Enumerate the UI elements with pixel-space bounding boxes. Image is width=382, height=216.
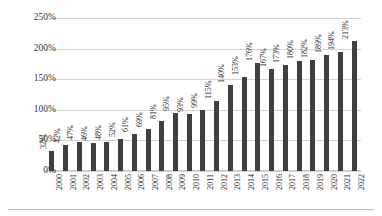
bar[interactable] xyxy=(269,69,274,171)
bar-slot: 213% xyxy=(347,18,361,171)
bar[interactable] xyxy=(104,142,109,171)
bar-value-label: 182% xyxy=(301,39,309,58)
bar-value-label: 32% xyxy=(40,135,48,150)
bar-value-label: 47% xyxy=(67,126,75,141)
bar[interactable] xyxy=(159,121,164,171)
bar[interactable] xyxy=(173,113,178,171)
x-tick-slot: 2015 xyxy=(251,173,265,213)
bar[interactable] xyxy=(338,52,343,171)
bar-value-label: 81% xyxy=(150,105,158,120)
bar[interactable] xyxy=(132,134,137,171)
x-tick-slot: 2019 xyxy=(306,173,320,213)
bar-chart: 0%50%100%150%200%250% 32%42%47%46%48%52%… xyxy=(0,0,382,216)
bar[interactable] xyxy=(63,145,68,171)
document-separator xyxy=(8,209,374,210)
bar[interactable] xyxy=(91,143,96,171)
bar-value-label: 93% xyxy=(177,97,185,112)
bar-value-label: 115% xyxy=(205,80,213,98)
x-tick-slot: 2004 xyxy=(100,173,114,213)
bar[interactable] xyxy=(214,101,219,171)
x-tick-slot: 2010 xyxy=(182,173,196,213)
x-tick-slot: 2005 xyxy=(114,173,128,213)
bar-slot: 167% xyxy=(265,18,279,171)
x-tick-slot: 2001 xyxy=(59,173,73,213)
bar-value-label: 52% xyxy=(109,123,117,138)
bar[interactable] xyxy=(200,110,205,171)
bar[interactable] xyxy=(297,61,302,171)
x-tick-slot: 2009 xyxy=(169,173,183,213)
bar-value-label: 213% xyxy=(342,20,350,39)
bar[interactable] xyxy=(352,41,357,171)
bar-value-label: 61% xyxy=(122,117,130,132)
bar-series: 32%42%47%46%48%52%61%69%81%95%93%99%115%… xyxy=(45,18,361,171)
x-tick-slot: 2000 xyxy=(45,173,59,213)
gridline xyxy=(45,171,361,172)
bar[interactable] xyxy=(228,85,233,171)
bar[interactable] xyxy=(242,77,247,171)
bar-value-label: 140% xyxy=(218,65,226,84)
bar-slot: 46% xyxy=(86,18,100,171)
x-tick-slot: 2013 xyxy=(224,173,238,213)
x-tick-slot: 2022 xyxy=(347,173,361,213)
bar-slot: 153% xyxy=(237,18,251,171)
bar[interactable] xyxy=(77,142,82,171)
x-tick-slot: 2012 xyxy=(210,173,224,213)
bar-slot: 194% xyxy=(333,18,347,171)
bar-slot: 140% xyxy=(224,18,238,171)
bar-slot: 48% xyxy=(100,18,114,171)
x-tick-slot: 2008 xyxy=(155,173,169,213)
bar-value-label: 176% xyxy=(246,43,254,62)
bar-slot: 52% xyxy=(114,18,128,171)
bar-value-label: 180% xyxy=(287,40,295,59)
bar-value-label: 153% xyxy=(232,57,240,76)
x-tick-slot: 2002 xyxy=(72,173,86,213)
bar-slot: 81% xyxy=(155,18,169,171)
x-tick-slot: 2017 xyxy=(278,173,292,213)
x-tick-slot: 2014 xyxy=(237,173,251,213)
x-tick-slot: 2018 xyxy=(292,173,306,213)
x-tick-slot: 2003 xyxy=(86,173,100,213)
bar-slot: 42% xyxy=(59,18,73,171)
bar[interactable] xyxy=(255,63,260,171)
bar-value-label: 95% xyxy=(163,96,171,111)
x-axis: 2000200120022003200420052006200720082009… xyxy=(45,173,361,213)
bar[interactable] xyxy=(49,151,54,171)
bar-slot: 61% xyxy=(127,18,141,171)
bar-value-label: 42% xyxy=(54,129,62,144)
bar-value-label: 173% xyxy=(273,44,281,63)
x-tick-slot: 2021 xyxy=(333,173,347,213)
bar-value-label: 189% xyxy=(315,35,323,54)
bar-value-label: 194% xyxy=(328,32,336,51)
bar-value-label: 48% xyxy=(95,125,103,140)
bar-value-label: 167% xyxy=(260,48,268,67)
x-axis-tick-label: 2022 xyxy=(358,174,366,190)
bar[interactable] xyxy=(310,60,315,171)
bar-slot: 95% xyxy=(169,18,183,171)
bar[interactable] xyxy=(324,55,329,171)
bar[interactable] xyxy=(118,139,123,171)
bar-value-label: 69% xyxy=(136,112,144,127)
bar[interactable] xyxy=(146,129,151,171)
bar-slot: 47% xyxy=(72,18,86,171)
bar-value-label: 46% xyxy=(81,126,89,141)
bar[interactable] xyxy=(283,65,288,171)
x-tick-slot: 2011 xyxy=(196,173,210,213)
bar-slot: 176% xyxy=(251,18,265,171)
x-tick-slot: 2020 xyxy=(320,173,334,213)
bar-slot: 69% xyxy=(141,18,155,171)
bar-slot: 32% xyxy=(45,18,59,171)
x-tick-slot: 2006 xyxy=(127,173,141,213)
bar-value-label: 99% xyxy=(191,94,199,109)
bar-slot: 115% xyxy=(210,18,224,171)
bar[interactable] xyxy=(187,114,192,171)
x-tick-slot: 2016 xyxy=(265,173,279,213)
x-tick-slot: 2007 xyxy=(141,173,155,213)
